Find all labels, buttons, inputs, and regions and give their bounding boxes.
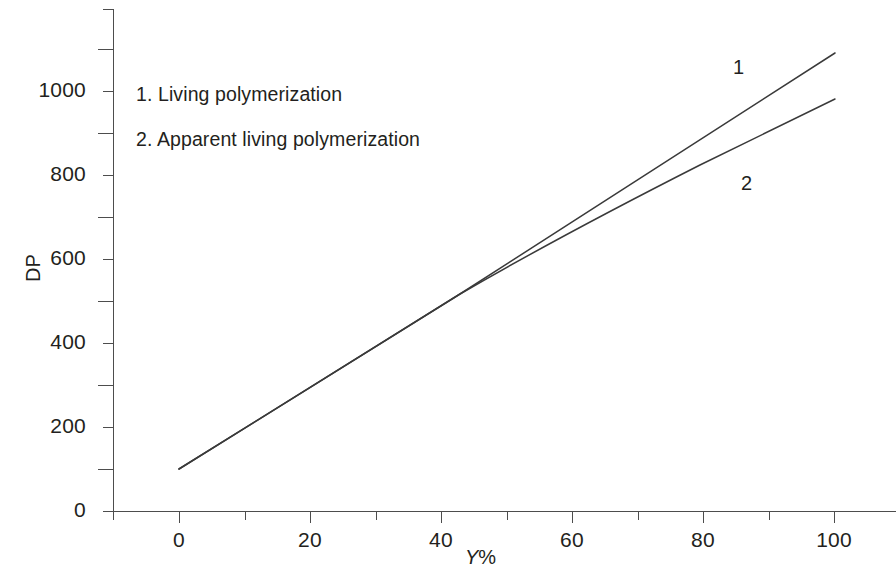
curve-tag-1: 1 <box>733 56 744 79</box>
x-tick-label-80: 80 <box>663 528 743 552</box>
x-tick-label-0: 0 <box>139 528 219 552</box>
x-axis-title: Y% <box>465 546 496 569</box>
series-line-living-polymerization <box>179 53 835 469</box>
y-tick-label-0: 0 <box>8 498 86 522</box>
y-tick-label-200: 200 <box>8 414 86 438</box>
y-ticks-minor <box>98 10 114 470</box>
plot-area <box>0 0 896 575</box>
curve-tag-2: 2 <box>741 172 752 195</box>
x-tick-label-100: 100 <box>794 528 874 552</box>
x-tick-label-60: 60 <box>532 528 612 552</box>
legend-item-living-polymerization: 1. Living polymerization <box>136 83 342 106</box>
y-tick-label-600: 600 <box>8 246 86 270</box>
y-axis-title: DP <box>22 254 45 282</box>
chart-figure: 1000 800 600 400 200 0 0 20 40 60 80 100… <box>0 0 896 575</box>
x-tick-label-20: 20 <box>270 528 350 552</box>
y-tick-label-800: 800 <box>8 162 86 186</box>
x-axis-title-variable: Y <box>465 546 478 568</box>
y-tick-label-400: 400 <box>8 330 86 354</box>
legend-item-apparent-living-polymerization: 2. Apparent living polymerization <box>136 128 420 151</box>
series-line-apparent-living-polymerization <box>179 99 835 469</box>
x-axis-title-unit: % <box>478 546 496 568</box>
y-tick-label-1000: 1000 <box>8 78 86 102</box>
